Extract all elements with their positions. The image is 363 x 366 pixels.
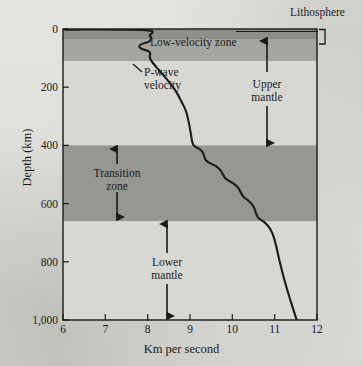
- x-tick-label-10: 10: [227, 323, 239, 335]
- lithosphere-bracket: [319, 30, 325, 45]
- lower-mantle-label-line2: mantle: [151, 269, 182, 281]
- y-tick-label-1000: 1,000: [32, 314, 58, 326]
- annotation-transition-zone: Transition zone: [94, 167, 141, 193]
- transition-label-line2: zone: [106, 180, 128, 192]
- transition-label-line1: Transition: [94, 167, 141, 179]
- annotation-low-velocity-zone: Low-velocity zone: [150, 36, 237, 49]
- y-tick-label-0: 0: [52, 23, 58, 35]
- x-tick-label-7: 7: [102, 323, 108, 335]
- x-axis-title: Km per second: [0, 342, 363, 357]
- y-axis-title: Depth (km): [20, 103, 35, 213]
- x-tick-label-11: 11: [269, 323, 280, 335]
- annotation-p-wave-velocity: P-wave velocity: [144, 66, 181, 92]
- upper-mantle-label-line2: mantle: [251, 91, 282, 103]
- x-tick-label-6: 6: [60, 323, 66, 335]
- y-tick-label-400: 400: [41, 139, 58, 151]
- x-tick-label-12: 12: [311, 323, 323, 335]
- annotation-upper-mantle: Upper mantle: [251, 78, 282, 104]
- y-tick-label-600: 600: [41, 198, 58, 210]
- p-wave-label-line1: P-wave: [144, 66, 179, 78]
- y-tick-label-200: 200: [41, 81, 58, 93]
- y-tick-label-800: 800: [41, 256, 58, 268]
- seismic-velocity-depth-chart: Depth (km) Km per second 6 7 8 9 10 11 1…: [0, 0, 363, 366]
- x-tick-label-9: 9: [187, 323, 193, 335]
- plot-area: [0, 0, 363, 366]
- upper-mantle-label-line1: Upper: [253, 78, 282, 90]
- lower-mantle-label-line1: Lower: [152, 256, 182, 268]
- annotation-lower-mantle: Lower mantle: [151, 256, 182, 282]
- annotation-lithosphere: Lithosphere: [290, 6, 345, 19]
- p-wave-label-line2: velocity: [144, 79, 181, 91]
- x-tick-label-8: 8: [145, 323, 151, 335]
